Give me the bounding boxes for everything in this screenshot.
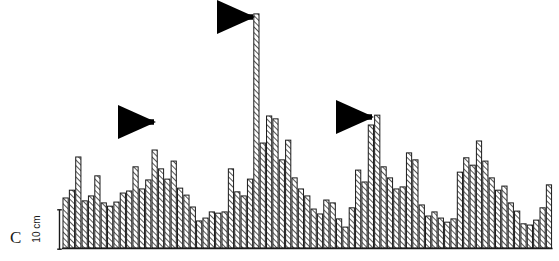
bar: [495, 190, 500, 248]
bar: [546, 185, 551, 248]
bar: [114, 202, 119, 248]
panel-label-c: C: [10, 229, 21, 246]
bar: [470, 165, 475, 248]
bar: [88, 196, 93, 248]
bar: [483, 161, 488, 248]
bar: [521, 224, 526, 248]
bar: [476, 141, 481, 248]
figure-panel-c: C 10 cm: [0, 0, 559, 261]
bar: [406, 153, 411, 248]
bar: [540, 208, 545, 248]
bar: [451, 219, 456, 248]
bar: [260, 143, 265, 248]
bar: [69, 190, 74, 248]
bar: [254, 14, 259, 248]
bar: [127, 191, 132, 248]
scale-bar-label: 10 cm: [31, 208, 42, 250]
bar: [368, 125, 373, 248]
bar: [324, 200, 329, 248]
bar: [222, 212, 227, 248]
bar: [171, 161, 176, 248]
bar: [330, 203, 335, 248]
bar: [502, 186, 507, 248]
bar: [432, 212, 437, 248]
bars-layer: [63, 14, 552, 248]
bar: [146, 180, 151, 248]
bar: [184, 195, 189, 248]
bar: [489, 178, 494, 248]
bar: [387, 178, 392, 248]
bar: [445, 222, 450, 248]
bar: [343, 227, 348, 248]
bar: [527, 225, 532, 248]
bar: [362, 182, 367, 248]
bar: [247, 179, 252, 248]
bar: [209, 212, 214, 248]
bar: [158, 169, 163, 248]
bar: [419, 205, 424, 248]
bar: [317, 214, 322, 248]
bar: [292, 178, 297, 248]
bar: [286, 140, 291, 248]
bar: [413, 160, 418, 248]
bar: [356, 170, 361, 248]
bar: [279, 160, 284, 248]
bar: [508, 203, 513, 248]
bar: [241, 196, 246, 248]
bar: [108, 206, 113, 248]
bar: [426, 216, 431, 248]
bar: [165, 179, 170, 248]
bar: [298, 189, 303, 248]
bar: [120, 193, 125, 248]
bar: [375, 115, 380, 248]
bar: [267, 116, 272, 248]
bar: [394, 189, 399, 248]
bar: [139, 189, 144, 248]
bar: [82, 201, 87, 248]
bar: [228, 169, 233, 248]
arrow-annotations-layer: [134, 17, 372, 122]
bar: [400, 187, 405, 248]
bar: [133, 167, 138, 248]
bar: [464, 158, 469, 248]
bar: [63, 198, 68, 248]
bar: [336, 219, 341, 248]
bar: [101, 203, 106, 248]
scale-bar: 10 cm: [40, 208, 62, 252]
bar: [534, 220, 539, 248]
bar: [152, 150, 157, 248]
bar: [438, 218, 443, 248]
bar: [95, 176, 100, 248]
bar: [177, 188, 182, 248]
bar: [235, 192, 240, 248]
bar: [311, 209, 316, 248]
bar: [457, 172, 462, 248]
bar: [349, 208, 354, 248]
bar: [216, 213, 221, 248]
bar: [197, 221, 202, 248]
histogram-profile-chart: [0, 0, 559, 261]
scale-bar-rule: [57, 209, 62, 250]
bar: [273, 119, 278, 248]
bar: [203, 218, 208, 248]
bar: [305, 196, 310, 248]
bar: [515, 211, 520, 248]
bar: [190, 207, 195, 248]
bar: [381, 167, 386, 248]
bar: [76, 157, 81, 248]
